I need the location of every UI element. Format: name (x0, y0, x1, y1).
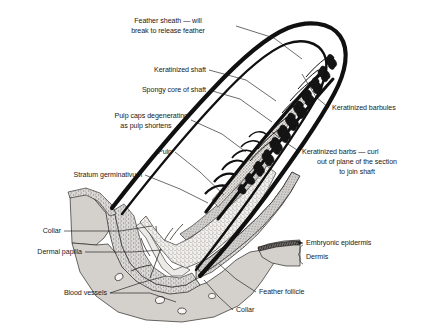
label-pulp-caps-line2: as pulp shortens (120, 122, 172, 130)
label-feather-follicle: Feather follicle (259, 288, 304, 296)
blood-vessel-lumen-4 (208, 293, 215, 298)
label-keratinized-barbs-line1: Keratinized barbs — curl (302, 148, 379, 156)
label-keratinized-barbules: Keratinized barbules (332, 104, 396, 112)
label-dermal-papilla: Dermal papilla (37, 248, 82, 256)
label-keratinized-barbs-line3: to join shaft (339, 168, 375, 176)
label-keratinized-shaft: Keratinized shaft (154, 66, 206, 74)
label-blood-vessels: Blood vessels (64, 289, 108, 297)
label-embryonic-epidermis: Embryonic epidermis (306, 239, 372, 247)
label-keratinized-barbs-line2: out of plane of the section (317, 158, 397, 166)
label-dermis: Dermis (306, 253, 329, 261)
label-spongy-core: Spongy core of shaft (142, 86, 206, 94)
feather-follicle-diagram: Feather sheath — will break to release f… (0, 0, 424, 331)
label-feather-sheath-line1: Feather sheath — will (134, 17, 202, 25)
label-collar-left: Collar (43, 227, 62, 235)
label-pulp-caps-line1: Pulp caps degenerating (115, 112, 189, 120)
label-feather-sheath-line2: break to release feather (131, 27, 205, 35)
label-collar-bottom: Collar (236, 306, 255, 314)
diagram-canvas: Feather sheath — will break to release f… (0, 0, 424, 331)
label-stratum-germinativum: Stratum germinativum (74, 171, 143, 179)
label-pulp: Pulp (158, 148, 172, 156)
